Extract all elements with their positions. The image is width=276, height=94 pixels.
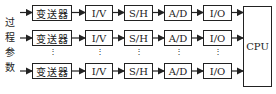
ellipsis: ⋮ xyxy=(96,50,102,54)
iv-block: I/V xyxy=(85,63,113,79)
io-block: I/O xyxy=(203,5,232,21)
ad-block: A/D xyxy=(164,63,192,79)
label-char: 数 xyxy=(4,60,16,75)
process-parameters-label: 过 程 参 数 xyxy=(4,15,16,75)
label-char: 参 xyxy=(4,45,16,60)
transmitter-block: 变送器 xyxy=(32,30,72,46)
iv-block: I/V xyxy=(85,5,113,21)
ellipsis: ⋮ xyxy=(135,50,141,54)
ad-block: A/D xyxy=(164,5,192,21)
ellipsis: ⋮ xyxy=(214,50,220,54)
cpu-block: CPU xyxy=(243,6,272,87)
iv-block: I/V xyxy=(85,30,113,46)
transmitter-block: 变送器 xyxy=(32,63,72,79)
ellipsis: ⋮ xyxy=(49,50,55,54)
io-block: I/O xyxy=(203,63,232,79)
sh-block: S/H xyxy=(124,63,153,79)
transmitter-block: 变送器 xyxy=(32,5,72,21)
sh-block: S/H xyxy=(124,5,153,21)
label-char: 过 xyxy=(4,15,16,30)
io-block: I/O xyxy=(203,30,232,46)
sh-block: S/H xyxy=(124,30,153,46)
ellipsis: ⋮ xyxy=(175,50,181,54)
ad-block: A/D xyxy=(164,30,192,46)
label-char: 程 xyxy=(4,30,16,45)
